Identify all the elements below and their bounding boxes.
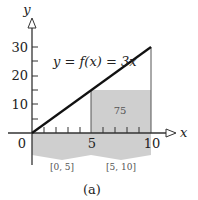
y-tick-30: 30 xyxy=(11,40,28,55)
x-tick-10: 10 xyxy=(144,136,161,151)
y-tick-10: 10 xyxy=(11,97,28,112)
y-axis-arrow-icon xyxy=(28,18,36,28)
x-tick-0: 0 xyxy=(18,136,26,151)
area-label: 75 xyxy=(114,105,127,116)
x-tick-5: 5 xyxy=(88,136,96,151)
brace-label-5-10: [5, 10] xyxy=(106,162,136,172)
caption: (a) xyxy=(83,182,101,197)
y-axis-label: y xyxy=(22,2,31,17)
function-label: y = f(x) = 3x xyxy=(52,54,137,69)
brace-5-10 xyxy=(91,133,151,160)
x-axis-arrow-icon xyxy=(166,129,176,137)
chart: y x 30 20 10 0 5 10 y = f(x) = 3x 75 [0,… xyxy=(0,0,198,200)
brace-0-5 xyxy=(32,133,91,160)
y-ticks xyxy=(32,47,38,119)
y-tick-20: 20 xyxy=(11,68,28,83)
x-axis-label: x xyxy=(180,125,188,140)
brace-label-0-5: [0, 5] xyxy=(50,162,74,172)
